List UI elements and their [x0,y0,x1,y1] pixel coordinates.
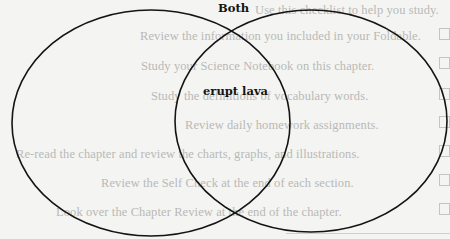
venn-diagram [0,0,450,239]
venn-both-label: Both [218,3,249,15]
venn-circle-left [12,10,290,236]
venn-circle-right [175,10,447,232]
worksheet-page: Use this checklist to help you study. Re… [0,0,450,239]
venn-overlap-text: erupt lava [203,86,268,98]
